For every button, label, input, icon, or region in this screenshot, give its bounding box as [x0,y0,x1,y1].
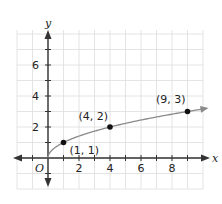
data-point [185,109,191,115]
point-label: (9, 3) [156,93,186,106]
curve-arrow-icon [200,106,208,113]
x-tick-label: 8 [169,162,176,175]
point-label: (1, 1) [70,144,100,157]
x-axis-label: x [212,152,219,165]
y-tick-label: 2 [32,121,39,134]
y-tick-label: 6 [32,59,39,72]
x-axis-left-arrow-icon [13,155,22,162]
y-axis-down-arrow-icon [45,178,52,187]
y-axis-label: y [44,17,52,30]
data-point [61,140,67,146]
data-point [107,124,113,130]
origin-label: O [35,162,44,175]
x-tick-label: 6 [138,162,145,175]
graph: 2468246 (1, 1)(4, 2)(9, 3) x y O [0,0,222,204]
x-tick-label: 4 [107,162,114,175]
x-axis-right-arrow-icon [201,155,210,162]
point-label: (4, 2) [78,110,108,123]
y-tick-label: 4 [32,90,39,103]
y-axis-up-arrow-icon [45,30,52,39]
x-tick-label: 2 [76,162,83,175]
